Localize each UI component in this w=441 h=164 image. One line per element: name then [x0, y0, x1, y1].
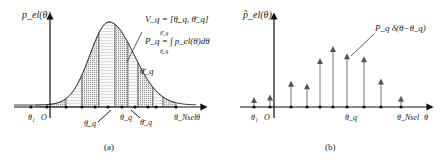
annotation-pointer — [351, 34, 374, 56]
impulse-arrowhead — [330, 46, 336, 52]
impulse-point — [318, 105, 321, 108]
figure: p_el(θ) V_q = [θ̲_q, θ̄_q] P_q = ∫ p_el(… — [0, 0, 441, 164]
tick-origin-a: O — [41, 113, 47, 122]
tick-theta-upper: θ̄_q — [140, 118, 152, 127]
band — [153, 87, 163, 107]
sample-dot — [106, 105, 109, 108]
sample-dot — [93, 105, 96, 108]
impulse-arrowhead — [361, 56, 367, 62]
equation-p: P_q = ∫ p_el(θ)dθ — [144, 36, 210, 47]
impulse-point — [331, 105, 334, 108]
band — [115, 24, 128, 107]
impulse-point — [399, 105, 402, 108]
tick-theta1-a: θ₁ — [28, 113, 35, 122]
impulse-point — [345, 105, 348, 108]
tick-theta-q-b: θ_q — [345, 113, 357, 122]
impulse-arrowhead — [398, 96, 404, 102]
panel-a: p_el(θ) V_q = [θ̲_q, θ̄_q] P_q = ∫ p_el(… — [14, 9, 210, 152]
caption-b: (b) — [325, 142, 336, 152]
impulse-point — [268, 105, 271, 108]
impulse-arrowhead — [317, 58, 323, 64]
integral-upper: θ̄_q — [160, 30, 168, 36]
impulse-arrowhead — [378, 78, 384, 84]
sample-dot — [29, 105, 32, 108]
sample-dot — [64, 105, 67, 108]
tick-origin-b: O — [264, 113, 270, 122]
label-theta-upper: θ̄_q — [140, 66, 154, 76]
sample-dot — [174, 105, 177, 108]
impulse-arrowhead — [344, 53, 350, 59]
impulse-point — [362, 105, 365, 108]
equation-v: V_q = [θ̲_q, θ̄_q] — [145, 14, 209, 24]
sample-dot — [45, 105, 48, 108]
impulse-point — [379, 105, 382, 108]
sample-dot — [154, 105, 157, 108]
tick-theta-lower: θ̲_q — [84, 119, 96, 128]
caption-a: (a) — [104, 142, 114, 152]
sample-dot — [133, 105, 136, 108]
tick-theta-nsel-b: θ_Nsel — [397, 113, 420, 122]
x-label-b: θ — [424, 113, 428, 122]
impulse-arrowhead — [288, 81, 294, 87]
tick-theta-nsel-a: θ_Nsel — [174, 113, 197, 122]
sample-dot — [146, 105, 149, 108]
impulse-arrowhead — [251, 97, 257, 103]
band — [99, 22, 115, 107]
tick-theta-q-a: θ_q — [120, 113, 132, 122]
integral-lower: θ̲_q — [160, 48, 168, 54]
y-label-b: p̃_el(θ) — [242, 9, 272, 21]
sample-dot — [80, 105, 83, 108]
impulse-point — [252, 105, 255, 108]
impulse-point — [289, 105, 292, 108]
tick-theta1-b: θ₁ — [251, 113, 258, 122]
pointer-lower — [98, 110, 111, 122]
sample-dot — [120, 105, 123, 108]
impulse-arrowhead — [304, 83, 310, 89]
x-label-a: θ — [196, 113, 200, 122]
impulse-arrowhead — [267, 95, 273, 101]
y-label-a: p_el(θ) — [21, 9, 51, 21]
shaded-bands — [36, 22, 176, 107]
annotation-delta: P_q δ(θ−θ_q) — [374, 23, 426, 33]
impulse-point — [305, 105, 308, 108]
panel-b: p̃_el(θ) P_q δ(θ−θ_q) θ₁ O θ_q θ_Nsel θ … — [240, 9, 430, 152]
pointer-upper — [131, 110, 140, 118]
